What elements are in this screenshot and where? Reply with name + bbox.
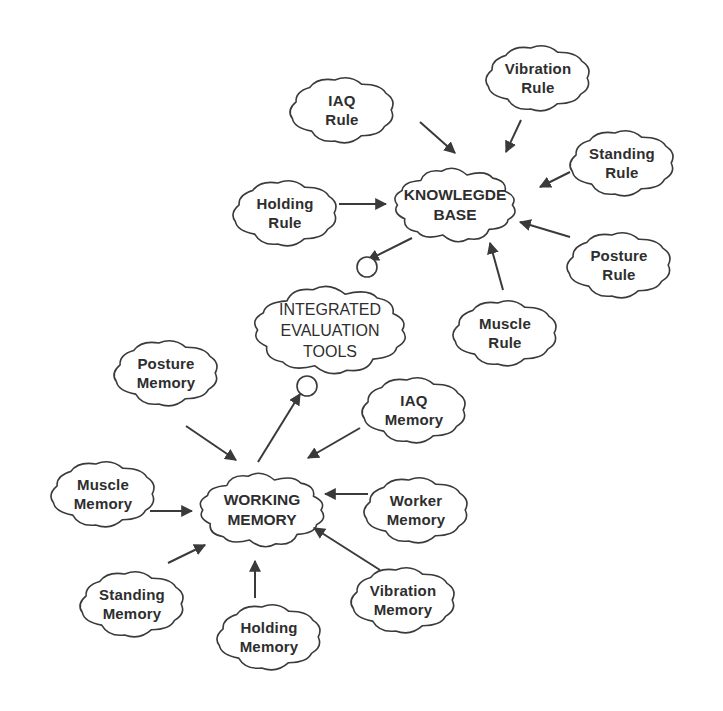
iaq-memory-node: IAQ Memory	[385, 391, 444, 429]
iaq-rule-node: IAQ Rule	[325, 91, 358, 129]
integrated-evaluation-tools-node: INTEGRATED EVALUATION TOOLS	[279, 299, 381, 362]
node-label-line: TOOLS	[279, 341, 381, 362]
arrow-standing-memory-to-working-memory	[168, 545, 205, 563]
arrow-muscle-rule-to-knowledge-base	[490, 243, 503, 290]
node-label-line: Muscle	[479, 314, 531, 333]
working-memory-node: WORKING MEMORY	[224, 490, 301, 530]
node-label-line: WORKING	[224, 490, 301, 510]
node-label-line: Memory	[240, 637, 299, 656]
vibration-memory-node: Vibration Memory	[370, 581, 437, 619]
node-label-line: Vibration	[370, 581, 437, 600]
node-label-line: Worker	[387, 491, 446, 510]
knowledge-base-node: KNOWLEGDE BASE	[404, 185, 506, 225]
node-label-line: Memory	[137, 373, 196, 392]
node-label-line: Rule	[590, 265, 647, 284]
arrow-posture-memory-to-working-memory	[186, 426, 236, 460]
arrow-vibration-rule-to-knowledge-base	[506, 120, 521, 152]
worker-memory-node: Worker Memory	[387, 491, 446, 529]
node-label-line: Memory	[99, 604, 165, 623]
kb-output-bubble	[357, 257, 377, 277]
vibration-rule-node: Vibration Rule	[505, 59, 572, 97]
node-label-line: Rule	[325, 110, 358, 129]
arrow-knowledge-base-to-integrated-tools	[368, 238, 412, 260]
node-label-line: IAQ	[325, 91, 358, 110]
node-label-line: KNOWLEGDE	[404, 185, 506, 205]
node-label-line: Vibration	[505, 59, 572, 78]
wm-output-bubble	[297, 376, 317, 396]
node-label-line: EVALUATION	[279, 320, 381, 341]
standing-memory-node: Standing Memory	[99, 585, 165, 623]
node-label-line: Rule	[256, 213, 313, 232]
holding-memory-node: Holding Memory	[240, 618, 299, 656]
node-label-line: Posture	[137, 354, 196, 373]
node-label-line: Memory	[370, 600, 437, 619]
node-label-line: Rule	[589, 163, 655, 182]
posture-rule-node: Posture Rule	[590, 246, 647, 284]
arrow-iaq-rule-to-knowledge-base	[420, 122, 455, 153]
muscle-rule-node: Muscle Rule	[479, 314, 531, 352]
node-label-line: Rule	[479, 333, 531, 352]
standing-rule-node: Standing Rule	[589, 144, 655, 182]
node-label-line: Memory	[74, 494, 133, 513]
node-label-line: Memory	[387, 510, 446, 529]
arrow-iaq-memory-to-working-memory	[308, 428, 360, 458]
arrow-vibration-memory-to-working-memory	[314, 528, 380, 570]
node-label-line: Standing	[589, 144, 655, 163]
node-label-line: Holding	[240, 618, 299, 637]
arrow-standing-rule-to-knowledge-base	[540, 172, 570, 187]
node-label-line: BASE	[404, 205, 506, 225]
arrow-posture-rule-to-knowledge-base	[520, 222, 570, 237]
muscle-memory-node: Muscle Memory	[74, 475, 133, 513]
node-label-line: IAQ	[385, 391, 444, 410]
node-label-line: Standing	[99, 585, 165, 604]
node-label-line: Rule	[505, 78, 572, 97]
posture-memory-node: Posture Memory	[137, 354, 196, 392]
node-label-line: Posture	[590, 246, 647, 265]
node-label-line: Memory	[385, 410, 444, 429]
node-label-line: INTEGRATED	[279, 299, 381, 320]
node-label-line: Muscle	[74, 475, 133, 494]
holding-rule-node: Holding Rule	[256, 194, 313, 232]
node-label-line: MEMORY	[224, 510, 301, 530]
arrow-working-memory-to-integrated-tools	[258, 394, 300, 462]
node-label-line: Holding	[256, 194, 313, 213]
